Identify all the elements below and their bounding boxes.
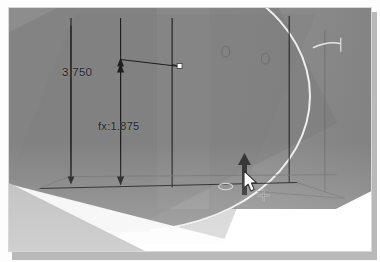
viewport-scene: 3.750 fx:1.875 [9,8,371,251]
graphics-viewport[interactable]: 3.750 fx:1.875 [8,7,372,252]
dimension-label-overall-height[interactable]: 3.750 [62,66,92,78]
dimension-label-equation[interactable]: fx:1.875 [98,120,140,132]
move-crosshair-badge [257,188,270,201]
move-crosshair-icon [257,189,270,202]
cad-application-window: 3.750 fx:1.875 [0,0,380,262]
